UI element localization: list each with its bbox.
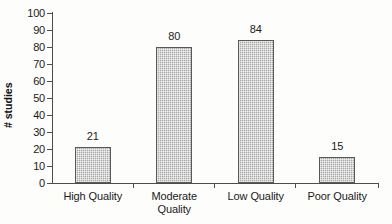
y-axis-label: 30 xyxy=(5,127,45,138)
y-axis-tick xyxy=(47,183,52,184)
bar-value-label: 84 xyxy=(236,24,276,35)
y-axis-tick xyxy=(47,81,52,82)
bar-value-label: 80 xyxy=(154,31,194,42)
bar-chart: # studies 100 90 80 70 60 50 40 30 20 10… xyxy=(0,0,392,224)
y-axis-label: 80 xyxy=(5,42,45,53)
y-axis-label: 90 xyxy=(5,25,45,36)
y-axis-label: 0 xyxy=(5,178,45,189)
y-axis-label: 10 xyxy=(5,161,45,172)
x-axis-tick xyxy=(214,183,215,188)
bar-high-quality xyxy=(75,147,111,183)
y-axis-tick xyxy=(47,166,52,167)
y-axis-tick xyxy=(47,47,52,48)
bar-low-quality xyxy=(238,40,274,183)
y-axis-tick xyxy=(47,30,52,31)
y-axis-label: 70 xyxy=(5,59,45,70)
y-axis-tick xyxy=(47,13,52,14)
y-axis-label: 50 xyxy=(5,93,45,104)
x-axis-category-label: Poor Quality xyxy=(292,190,382,203)
bar-value-label: 21 xyxy=(73,131,113,142)
x-axis-category-label: ModerateQuality xyxy=(129,190,219,215)
y-axis-label: 40 xyxy=(5,110,45,121)
x-axis-tick xyxy=(295,183,296,188)
y-axis-tick xyxy=(47,132,52,133)
y-axis-tick xyxy=(47,98,52,99)
y-axis-label: 60 xyxy=(5,76,45,87)
x-axis-tick xyxy=(378,183,379,188)
bar-poor-quality xyxy=(319,157,355,183)
y-axis-line xyxy=(52,12,53,184)
x-axis-category-label: Low Quality xyxy=(211,190,301,203)
x-axis-tick xyxy=(133,183,134,188)
y-axis-label: 100 xyxy=(5,8,45,19)
x-axis-category-label: High Quality xyxy=(48,190,138,203)
y-axis-tick xyxy=(47,64,52,65)
y-axis-label: 20 xyxy=(5,144,45,155)
y-axis-tick xyxy=(47,115,52,116)
bar-moderate-quality xyxy=(156,47,192,183)
y-axis-tick xyxy=(47,149,52,150)
bar-value-label: 15 xyxy=(317,141,357,152)
x-axis-line xyxy=(52,183,379,184)
